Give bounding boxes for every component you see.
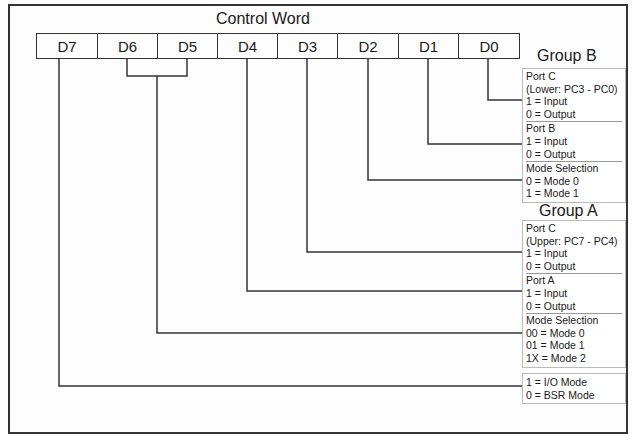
label: 1X = Mode 2 [526,352,622,365]
label: 0 = Output [526,148,622,161]
label: Port A [526,274,622,287]
label: 1 = Input [526,135,622,148]
label: (Upper: PC7 - PC4) [526,235,622,248]
label: 0 = Mode 0 [526,175,622,188]
group-a-label: Group A [539,202,598,220]
mode-flag-box: 1 = I/O Mode 0 = BSR Mode [522,373,626,404]
group-a-mode-section: Mode Selection 00 = Mode 0 01 = Mode 1 1… [526,314,622,365]
label: 01 = Mode 1 [526,339,622,352]
label: Mode Selection [526,162,622,175]
label: 1 = Input [526,95,622,108]
label: Port C [526,70,622,83]
port-c-lower-section: Port C (Lower: PC3 - PC0) 1 = Input 0 = … [526,70,622,122]
group-b-label: Group B [537,47,597,65]
port-b-section: Port B 1 = Input 0 = Output [526,122,622,162]
label: (Lower: PC3 - PC0) [526,83,622,96]
label: 0 = Output [526,300,622,313]
label: 00 = Mode 0 [526,327,622,340]
group-b-box: Port C (Lower: PC3 - PC0) 1 = Input 0 = … [522,68,626,203]
label: Port B [526,122,622,135]
label: 1 = Input [526,287,622,300]
label: 0 = Output [526,108,622,121]
label: 1 = I/O Mode [526,376,622,389]
label: Port C [526,222,622,235]
port-a-section: Port A 1 = Input 0 = Output [526,274,622,314]
label: 1 = Mode 1 [526,187,622,200]
label: Mode Selection [526,314,622,327]
label: 1 = Input [526,247,622,260]
label: 0 = Output [526,260,622,273]
group-a-box: Port C (Upper: PC7 - PC4) 1 = Input 0 = … [522,220,626,368]
group-b-mode-section: Mode Selection 0 = Mode 0 1 = Mode 1 [526,162,622,201]
port-c-upper-section: Port C (Upper: PC7 - PC4) 1 = Input 0 = … [526,222,622,274]
label: 0 = BSR Mode [526,389,622,402]
